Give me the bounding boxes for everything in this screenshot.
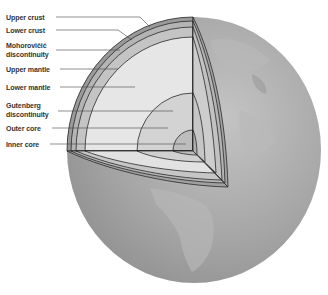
- label-upper-crust: Upper crust: [6, 13, 45, 22]
- label-moho-line1: Mohorovičić: [6, 41, 47, 50]
- label-inner-core: Inner core: [6, 140, 39, 149]
- cutaway-front-face: [67, 17, 193, 151]
- label-outer-core: Outer core: [6, 124, 41, 133]
- leader-upper-crust: [56, 17, 150, 27]
- leader-lower-crust: [56, 30, 132, 40]
- label-moho-line2: discontinuity: [6, 50, 49, 59]
- label-lower-mantle: Lower mantle: [6, 83, 50, 92]
- label-gutenberg-line2: discontinuity: [6, 110, 49, 119]
- earth-layers-diagram: [0, 0, 328, 295]
- label-upper-mantle: Upper mantle: [6, 65, 50, 74]
- label-gutenberg-line1: Gutenberg: [6, 101, 41, 110]
- label-lower-crust: Lower crust: [6, 26, 45, 35]
